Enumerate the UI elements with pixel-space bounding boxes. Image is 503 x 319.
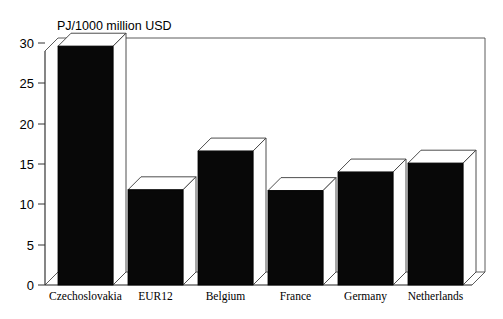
category-label-netherlands: Netherlands	[408, 290, 464, 302]
bar-front-face	[128, 190, 183, 285]
frame-depth-top-left	[45, 38, 58, 51]
bar-side-face	[323, 178, 336, 285]
y-axis-ticks	[38, 43, 45, 285]
bar-belgium[interactable]	[198, 138, 266, 285]
category-label-belgium: Belgium	[206, 290, 246, 303]
axis-unit-title: PJ/1000 million USD	[57, 19, 172, 33]
category-labels-layer: CzechoslovakiaEUR12BelgiumFranceGermanyN…	[49, 290, 464, 303]
y-axis-tick-labels: 0 5 10 15 20 25 30	[20, 36, 34, 293]
y-tick-label-25: 25	[20, 76, 34, 91]
y-tick-label-15: 15	[20, 157, 34, 172]
bar-eur12[interactable]	[128, 177, 196, 285]
bar-front-face	[268, 191, 323, 285]
bar-side-face	[183, 177, 196, 285]
y-tick-label-10: 10	[20, 197, 34, 212]
frame-depth-bottom-left	[45, 272, 58, 285]
chart-canvas: PJ/1000 million USD	[0, 0, 503, 319]
bar-france[interactable]	[268, 178, 336, 285]
bars-layer	[58, 33, 476, 285]
y-tick-label-30: 30	[20, 36, 34, 51]
category-label-germany: Germany	[344, 290, 387, 303]
bar-front-face	[408, 163, 463, 285]
y-tick-label-5: 5	[27, 238, 34, 253]
bar-side-face	[463, 150, 476, 285]
bar-germany[interactable]	[338, 159, 406, 285]
bar-czechoslovakia[interactable]	[58, 33, 126, 285]
bar-chart: PJ/1000 million USD	[0, 0, 503, 319]
bar-front-face	[338, 172, 393, 285]
bar-side-face	[393, 159, 406, 285]
bar-side-face	[253, 138, 266, 285]
category-label-czechoslovakia: Czechoslovakia	[49, 290, 122, 302]
bar-front-face	[198, 151, 253, 285]
y-tick-label-0: 0	[27, 278, 34, 293]
bar-side-face	[113, 33, 126, 285]
category-label-france: France	[280, 290, 311, 302]
category-label-eur12: EUR12	[138, 290, 173, 302]
bar-netherlands[interactable]	[408, 150, 476, 285]
bar-front-face	[58, 46, 113, 285]
y-tick-label-20: 20	[20, 117, 34, 132]
